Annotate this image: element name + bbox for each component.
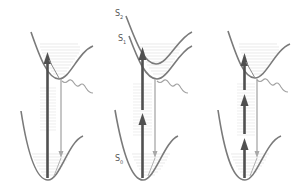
- excitation-arrow-2: [139, 47, 147, 110]
- s0-potential-curve: [115, 110, 178, 180]
- s0-potential-curve: [218, 110, 281, 180]
- s1-potential-curve: [129, 36, 192, 79]
- excitation-arrow-3: [241, 53, 249, 90]
- s1-potential-curve: [31, 32, 93, 79]
- s1-label-subscript: 1: [123, 39, 126, 45]
- s2-potential-curve: [126, 16, 192, 64]
- panel-two-photon: [115, 16, 192, 180]
- diagram-canvas: [0, 0, 308, 194]
- fluorescence-wave-icon: [257, 79, 288, 92]
- s1-label: S1: [118, 34, 126, 45]
- s0-label: S0: [115, 154, 123, 165]
- emission-arrow: [59, 79, 64, 158]
- s0-potential-curve: [21, 111, 83, 180]
- excitation-arrow-1: [139, 113, 147, 178]
- emission-arrow: [153, 79, 158, 158]
- panel-three-photon: [218, 31, 290, 180]
- emission-arrow: [255, 79, 260, 158]
- photon-absorption-diagram: S2 S1 S0: [0, 0, 308, 194]
- virtual-levels: [237, 84, 255, 135]
- fluorescence-wave-icon: [62, 80, 93, 93]
- fluorescence-wave-icon: [157, 80, 188, 93]
- relaxation-line: [246, 62, 255, 78]
- s2-label-subscript: 2: [120, 14, 123, 20]
- s0-vibrational-levels: [132, 154, 170, 175]
- s0-label-subscript: 0: [120, 159, 123, 165]
- s2-label: S2: [115, 9, 123, 20]
- panel-one-photon: [21, 32, 93, 180]
